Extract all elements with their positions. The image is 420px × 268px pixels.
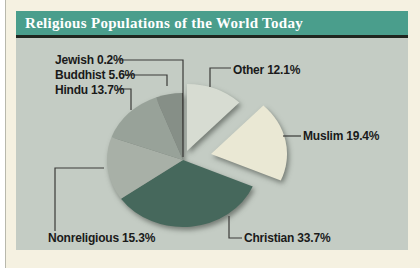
slice-label-christian: Christian 33.7%	[244, 232, 330, 245]
slice-label-hindu: Hindu 13.7%	[55, 84, 124, 97]
pie-slices	[107, 84, 287, 227]
leader-line-other	[210, 68, 231, 87]
leader-line-christian	[229, 216, 242, 238]
page: Religious Populations of the World Today…	[0, 0, 420, 268]
slice-label-nonreligious: Nonreligious 15.3%	[48, 232, 155, 245]
slice-label-muslim: Muslim 19.4%	[303, 130, 379, 143]
slice-label-buddhist: Buddhist 5.6%	[55, 69, 135, 82]
slice-label-jewish: Jewish 0.2%	[55, 54, 124, 67]
leader-line-nonreligious	[55, 168, 104, 231]
slice-label-other: Other 12.1%	[233, 64, 300, 77]
